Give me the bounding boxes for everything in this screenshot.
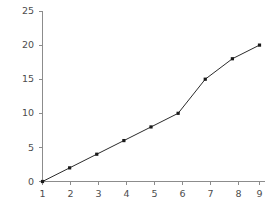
x-axis-ticks (43, 182, 260, 186)
x-tick-label-5: 5 (151, 188, 157, 199)
x-tick-label-1: 1 (39, 188, 45, 199)
y-tick-label-25: 25 (22, 5, 34, 16)
data-point-marker (258, 44, 261, 47)
y-tick-label-10: 10 (22, 107, 34, 118)
y-axis-labels: 0 5 10 15 20 25 (22, 5, 34, 187)
x-tick-label-2: 2 (67, 188, 73, 199)
x-tick-label-4: 4 (123, 188, 129, 199)
x-tick-label-6: 6 (179, 188, 185, 199)
data-point-marker (231, 57, 234, 60)
data-point-marker (95, 153, 98, 156)
x-tick-label-8: 8 (235, 188, 241, 199)
x-tick-label-7: 7 (207, 188, 213, 199)
series-markers (41, 44, 261, 184)
line-chart: 0 5 10 15 20 25 1 2 3 4 5 6 7 (0, 0, 276, 206)
data-point-marker (149, 125, 152, 128)
series-line (43, 45, 260, 181)
x-tick-label-3: 3 (95, 188, 101, 199)
data-point-marker (177, 112, 180, 115)
data-point-marker (68, 166, 71, 169)
chart-plot-area: 0 5 10 15 20 25 1 2 3 4 5 6 7 (0, 0, 276, 206)
y-tick-label-15: 15 (22, 73, 34, 84)
y-axis-ticks (39, 11, 43, 182)
data-point-marker (41, 180, 44, 183)
y-tick-label-20: 20 (22, 39, 34, 50)
x-tick-label-9: 9 (256, 188, 262, 199)
x-axis-labels: 1 2 3 4 5 6 7 8 9 (39, 188, 262, 199)
data-point-marker (204, 78, 207, 81)
data-point-marker (122, 139, 125, 142)
y-tick-label-5: 5 (28, 142, 34, 153)
y-tick-label-0: 0 (28, 176, 34, 187)
